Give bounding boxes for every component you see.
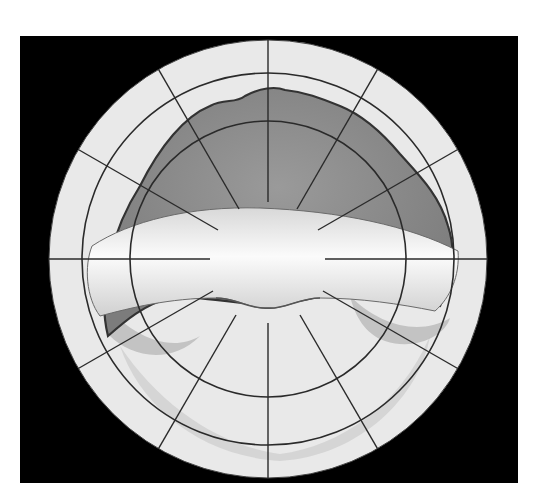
retina-chart-frame <box>20 36 518 483</box>
retina-chart <box>20 36 518 483</box>
